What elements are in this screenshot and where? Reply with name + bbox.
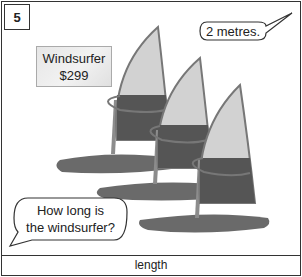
question-bubble-text: How long is the windsurfer? bbox=[14, 202, 127, 236]
question-line-1: How long is bbox=[14, 202, 127, 219]
price-tag-item: Windsurfer bbox=[37, 50, 111, 67]
board-3 bbox=[139, 214, 269, 232]
question-line-2: the windsurfer? bbox=[14, 219, 127, 236]
question-number: 5 bbox=[4, 4, 30, 30]
price-tag-price: $299 bbox=[37, 67, 111, 84]
answer-row-divider bbox=[1, 255, 301, 256]
answer-bubble-text: 2 metres. bbox=[200, 23, 266, 40]
price-tag: Windsurfer $299 bbox=[36, 46, 112, 87]
answer-row-label: length bbox=[0, 258, 302, 272]
